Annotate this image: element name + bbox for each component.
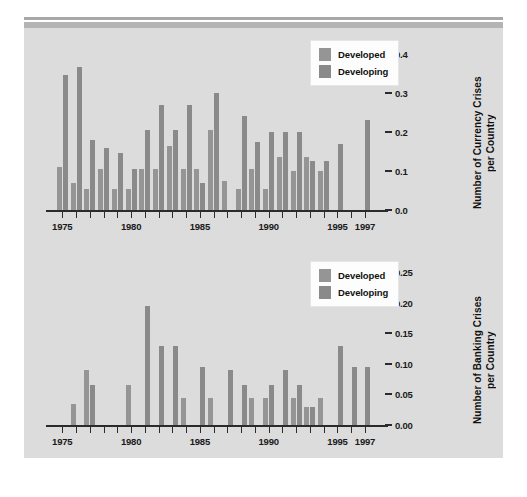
bar-developed-1984 bbox=[181, 169, 186, 210]
x-tick-1979 bbox=[117, 427, 118, 433]
bar-developing-1982 bbox=[159, 346, 164, 425]
bar-developing-1990 bbox=[269, 385, 274, 425]
x-tick-label-1995: 1995 bbox=[327, 221, 347, 232]
bar-developing-1991 bbox=[283, 132, 288, 210]
x-tick-1977 bbox=[90, 427, 91, 433]
bar-developing-1996 bbox=[352, 367, 357, 425]
x-tick-1976 bbox=[76, 427, 77, 433]
bar-developing-1980 bbox=[132, 169, 137, 210]
x-tick-1985 bbox=[200, 212, 201, 218]
bar-developing-1988 bbox=[242, 385, 247, 425]
x-tick-label-1985: 1985 bbox=[190, 221, 210, 232]
bar-developed-1990 bbox=[263, 398, 268, 426]
y-tick-label-0.05: 0.05 bbox=[395, 389, 413, 400]
x-tick-label-1990: 1990 bbox=[258, 436, 278, 447]
x-tick-label-1997: 1997 bbox=[355, 221, 375, 232]
x-tick-1993 bbox=[310, 427, 311, 433]
x-tick-label-1980: 1980 bbox=[121, 221, 141, 232]
x-tick-1991 bbox=[282, 427, 283, 433]
bar-developed-1992 bbox=[291, 398, 296, 426]
y-tick-0.0 bbox=[385, 209, 392, 211]
x-tick-1983 bbox=[172, 427, 173, 433]
x-tick-1984 bbox=[186, 427, 187, 433]
bar-developed-1992 bbox=[291, 171, 296, 210]
bar-developing-1987 bbox=[228, 370, 233, 425]
legend-label-developing: Developing bbox=[338, 66, 388, 77]
bar-developed-1987 bbox=[222, 181, 227, 210]
bar-developing-1982 bbox=[159, 105, 164, 210]
x-tick-1985 bbox=[200, 427, 201, 433]
x-tick-1991 bbox=[282, 212, 283, 218]
x-tick-1988 bbox=[241, 212, 242, 218]
bar-developed-1976 bbox=[71, 404, 76, 425]
x-tick-1988 bbox=[241, 427, 242, 433]
bar-developed-1993 bbox=[304, 157, 309, 210]
bar-developing-1994 bbox=[324, 161, 329, 210]
bar-developing-1986 bbox=[214, 93, 219, 210]
bar-developed-1986 bbox=[208, 398, 213, 426]
y-tick-label-0.1: 0.1 bbox=[395, 165, 408, 176]
y-tick-label-0.2: 0.2 bbox=[395, 126, 408, 137]
bar-developing-1991 bbox=[283, 370, 288, 425]
x-tick-1980 bbox=[131, 212, 132, 218]
x-tick-1986 bbox=[214, 212, 215, 218]
y-tick-0.3 bbox=[385, 92, 392, 94]
bar-developing-1985 bbox=[200, 367, 205, 425]
bar-developing-1981 bbox=[145, 306, 150, 425]
x-tick-1986 bbox=[214, 427, 215, 433]
x-tick-label-1997: 1997 bbox=[355, 436, 375, 447]
bar-developing-1979 bbox=[118, 153, 123, 210]
bar-developed-1993 bbox=[304, 407, 309, 425]
bar-developed-1989 bbox=[249, 169, 254, 210]
bar-developing-1984 bbox=[187, 105, 192, 210]
y-tick-label-0.0: 0.0 bbox=[395, 205, 408, 216]
legend-label-developed: Developed bbox=[338, 49, 385, 60]
bar-developed-1980 bbox=[126, 385, 131, 425]
currency-crises-chart: 1975198019851990199519970.00.10.20.30.4 … bbox=[24, 28, 503, 243]
bar-developed-1988 bbox=[236, 189, 241, 210]
bar-developing-1983 bbox=[173, 346, 178, 425]
legend-swatch-developed bbox=[319, 48, 331, 61]
legend-swatch-developing bbox=[319, 286, 331, 299]
banking-crises-chart: 1975198019851990199519970.000.050.100.15… bbox=[24, 243, 503, 458]
x-tick-1990 bbox=[269, 212, 270, 218]
x-tick-label-1985: 1985 bbox=[190, 436, 210, 447]
x-tick-1981 bbox=[145, 427, 146, 433]
bar-developing-1985 bbox=[200, 183, 205, 210]
x-tick-1996 bbox=[351, 427, 352, 433]
x-tick-1995 bbox=[337, 212, 338, 218]
bar-developed-1980 bbox=[126, 189, 131, 210]
y-tick-label-0.15: 0.15 bbox=[395, 328, 413, 339]
bar-developing-1983 bbox=[173, 130, 178, 210]
bar-developing-1989 bbox=[255, 142, 260, 210]
bar-developed-1985 bbox=[194, 169, 199, 210]
banking-crises-y-axis-title: Number of Banking Crises per Country bbox=[471, 283, 497, 438]
banking-crises-legend: Developed Developing bbox=[310, 261, 399, 307]
legend-label-developed: Developed bbox=[338, 270, 385, 281]
bar-developed-1977 bbox=[84, 189, 89, 210]
x-tick-1994 bbox=[324, 427, 325, 433]
x-tick-1994 bbox=[324, 212, 325, 218]
x-tick-1980 bbox=[131, 427, 132, 433]
y-tick-label-0.3: 0.3 bbox=[395, 87, 408, 98]
bar-developing-1981 bbox=[145, 130, 150, 210]
x-tick-1989 bbox=[255, 427, 256, 433]
x-tick-1976 bbox=[76, 212, 77, 218]
bar-developed-1994 bbox=[318, 398, 323, 426]
y-tick-0.00 bbox=[385, 424, 392, 426]
y-tick-0.10 bbox=[385, 363, 392, 365]
bar-developed-1977 bbox=[84, 370, 89, 425]
x-tick-1990 bbox=[269, 427, 270, 433]
legend-item-developed: Developed bbox=[319, 269, 388, 282]
bar-developed-1981 bbox=[139, 169, 144, 210]
legend-item-developing: Developing bbox=[319, 286, 388, 299]
x-tick-label-1995: 1995 bbox=[327, 436, 347, 447]
x-tick-1987 bbox=[227, 212, 228, 218]
bar-developing-1997 bbox=[365, 120, 370, 210]
bar-developing-1976 bbox=[77, 67, 82, 210]
bar-developed-1984 bbox=[181, 398, 186, 426]
legend-swatch-developing bbox=[319, 65, 331, 78]
bar-developing-1995 bbox=[338, 346, 343, 425]
bar-developed-1979 bbox=[112, 189, 117, 210]
bar-developing-1990 bbox=[269, 132, 274, 210]
